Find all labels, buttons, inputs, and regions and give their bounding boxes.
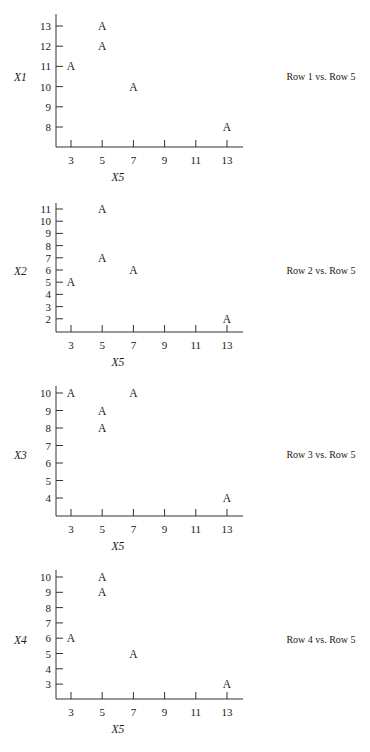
y-tick-label: 13 xyxy=(40,20,52,32)
x-tick-label: 3 xyxy=(68,154,74,166)
scatter-panel-1: 891011121335791113X5X1AAAAARow 1 vs. Row… xyxy=(13,14,356,183)
data-point-marker: A xyxy=(223,678,232,690)
y-tick-label: 4 xyxy=(46,663,52,675)
y-tick-label: 6 xyxy=(46,632,52,644)
y-tick-label: 5 xyxy=(46,475,52,487)
y-tick-label: 3 xyxy=(46,301,52,313)
data-point-marker: A xyxy=(223,313,232,325)
scatter-plot-stack: 891011121335791113X5X1AAAAARow 1 vs. Row… xyxy=(0,0,370,752)
y-tick-label: 8 xyxy=(46,602,52,614)
data-point-marker: A xyxy=(223,492,232,504)
x-tick-label: 13 xyxy=(222,523,234,535)
y-tick-label: 9 xyxy=(46,101,52,113)
x-tick-label: 13 xyxy=(222,154,234,166)
x-tick-label: 9 xyxy=(162,706,168,718)
data-point-marker: A xyxy=(67,60,76,72)
y-tick-label: 6 xyxy=(46,264,52,276)
y-tick-label: 9 xyxy=(46,586,52,598)
data-point-marker: A xyxy=(129,648,138,660)
data-point-marker: A xyxy=(98,586,107,598)
y-tick-label: 7 xyxy=(46,440,52,452)
data-point-marker: A xyxy=(98,40,107,52)
data-point-marker: A xyxy=(67,276,76,288)
data-point-marker: A xyxy=(129,81,138,93)
x-tick-label: 9 xyxy=(162,523,168,535)
y-axis-title: X2 xyxy=(13,265,27,277)
y-tick-label: 10 xyxy=(40,387,52,399)
y-tick-label: 4 xyxy=(46,492,52,504)
x-axis-title: X5 xyxy=(110,723,124,735)
y-tick-label: 5 xyxy=(46,648,52,660)
x-tick-label: 7 xyxy=(131,523,137,535)
data-point-marker: A xyxy=(129,387,138,399)
x-tick-label: 3 xyxy=(68,706,74,718)
y-tick-label: 9 xyxy=(46,227,52,239)
panel-caption: Row 2 vs. Row 5 xyxy=(286,265,355,276)
x-axis-title: X5 xyxy=(110,356,124,368)
x-tick-label: 5 xyxy=(99,706,105,718)
x-tick-label: 5 xyxy=(99,523,105,535)
x-tick-label: 11 xyxy=(191,706,202,718)
x-tick-label: 7 xyxy=(131,154,137,166)
y-tick-label: 2 xyxy=(46,313,52,325)
y-tick-label: 8 xyxy=(46,121,52,133)
data-point-marker: A xyxy=(98,252,107,264)
data-point-marker: A xyxy=(98,405,107,417)
data-point-marker: A xyxy=(98,422,107,434)
data-point-marker: A xyxy=(98,20,107,32)
data-point-marker: A xyxy=(98,571,107,583)
y-tick-label: 12 xyxy=(40,40,51,52)
y-axis-title: X4 xyxy=(13,634,27,646)
x-tick-label: 11 xyxy=(191,339,202,351)
x-axis-title: X5 xyxy=(110,540,124,552)
x-tick-label: 9 xyxy=(162,339,168,351)
y-axis-title: X3 xyxy=(13,449,27,461)
x-tick-label: 7 xyxy=(131,339,137,351)
y-tick-label: 7 xyxy=(46,252,52,264)
x-tick-label: 7 xyxy=(131,706,137,718)
y-tick-label: 8 xyxy=(46,240,52,252)
x-tick-label: 3 xyxy=(68,339,74,351)
y-tick-label: 10 xyxy=(40,215,52,227)
x-tick-label: 13 xyxy=(222,339,234,351)
y-tick-label: 11 xyxy=(40,60,51,72)
y-axis-title: X1 xyxy=(13,71,27,83)
panel-caption: Row 3 vs. Row 5 xyxy=(286,449,355,460)
panel-caption: Row 1 vs. Row 5 xyxy=(286,71,355,82)
scatter-panel-4: 34567891035791113X5X4AAAAARow 4 vs. Row … xyxy=(13,570,356,735)
x-axis-title: X5 xyxy=(110,171,124,183)
x-tick-label: 5 xyxy=(99,154,105,166)
panel-caption: Row 4 vs. Row 5 xyxy=(286,634,355,645)
x-tick-label: 11 xyxy=(191,154,202,166)
x-tick-label: 11 xyxy=(191,523,202,535)
y-tick-label: 8 xyxy=(46,422,52,434)
data-point-marker: A xyxy=(129,264,138,276)
y-tick-label: 11 xyxy=(40,203,51,215)
y-tick-label: 6 xyxy=(46,457,52,469)
data-point-marker: A xyxy=(67,387,76,399)
scatter-panel-2: 23456789101135791113X5X2AAAAARow 2 vs. R… xyxy=(13,203,356,368)
x-tick-label: 5 xyxy=(99,339,105,351)
x-tick-label: 13 xyxy=(222,706,234,718)
scatter-panel-3: 4567891035791113X5X3AAAAARow 3 vs. Row 5 xyxy=(13,386,356,552)
y-tick-label: 10 xyxy=(40,81,52,93)
data-point-marker: A xyxy=(67,632,76,644)
y-tick-label: 5 xyxy=(46,276,52,288)
y-tick-label: 4 xyxy=(46,288,52,300)
x-tick-label: 3 xyxy=(68,523,74,535)
scatter-plot-figure: 891011121335791113X5X1AAAAARow 1 vs. Row… xyxy=(0,0,370,752)
y-tick-label: 7 xyxy=(46,617,52,629)
x-tick-label: 9 xyxy=(162,154,168,166)
data-point-marker: A xyxy=(98,203,107,215)
data-point-marker: A xyxy=(223,121,232,133)
y-tick-label: 9 xyxy=(46,405,52,417)
y-tick-label: 10 xyxy=(40,571,52,583)
y-tick-label: 3 xyxy=(46,678,52,690)
